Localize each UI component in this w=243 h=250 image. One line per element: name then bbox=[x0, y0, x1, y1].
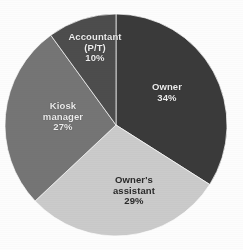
pie-chart: Owner 34% Owner's assistant 29% Kiosk ma… bbox=[0, 0, 243, 250]
pie-slice-group bbox=[5, 14, 227, 236]
pie-chart-svg bbox=[0, 0, 243, 250]
